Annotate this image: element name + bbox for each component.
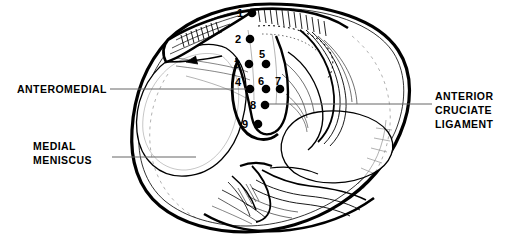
point-label-8: 8: [250, 99, 256, 111]
point-label-4: 4: [235, 76, 242, 88]
label-anterior-cruciate-ligament: ANTERIOR CRUCIATE LIGAMENT: [435, 89, 493, 131]
point-label-9: 9: [242, 118, 248, 130]
point-label-6: 6: [258, 75, 264, 87]
insertion-point-3[interactable]: [245, 60, 254, 69]
anatomical-figure: 1 2 3 4 5 6 7 8 9 ANTEROMEDIAL MEDIAL ME…: [0, 0, 506, 249]
label-medial-meniscus: MEDIAL MENISCUS: [33, 139, 92, 167]
insertion-point-5[interactable]: [262, 60, 271, 69]
insertion-point-2[interactable]: [246, 35, 255, 44]
point-label-1: 1: [237, 7, 243, 19]
point-label-5: 5: [259, 48, 265, 60]
label-anteromedial: ANTEROMEDIAL: [17, 82, 107, 96]
point-label-7: 7: [275, 75, 281, 87]
insertion-point-9[interactable]: [254, 120, 263, 129]
point-label-3: 3: [234, 58, 240, 70]
point-label-2: 2: [235, 33, 241, 45]
insertion-point-8[interactable]: [261, 101, 270, 110]
insertion-point-1[interactable]: [248, 9, 257, 18]
tibial-plateau-illustration: 1 2 3 4 5 6 7 8 9: [0, 0, 506, 249]
insertion-point-4[interactable]: [246, 85, 255, 94]
